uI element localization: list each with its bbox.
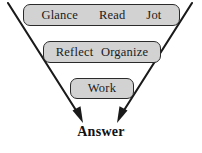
stage-box-reflect-organize: Reflect Organize — [43, 41, 161, 63]
stage-item-reflect: Reflect — [56, 46, 94, 59]
stage-box-glance-read-jot: Glance Read Jot — [23, 4, 180, 26]
stage-box-work: Work — [70, 78, 134, 99]
stage-item-read: Read — [99, 9, 125, 22]
funnel-diagram: Glance Read Jot Reflect Organize Work An… — [0, 0, 202, 153]
stage-item-jot: Jot — [146, 9, 161, 22]
stage-item-glance: Glance — [41, 9, 78, 22]
stage-item-organize: Organize — [101, 46, 148, 59]
answer-label: Answer — [0, 124, 202, 140]
stage-item-work: Work — [88, 82, 116, 95]
